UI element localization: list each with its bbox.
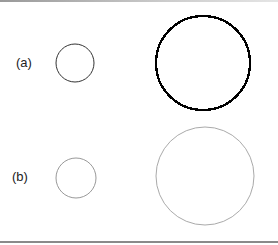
figure-canvas: (a) (b) — [0, 0, 278, 245]
circle-a-large-pixelated — [156, 16, 250, 110]
circle-a-small — [56, 44, 94, 82]
circle-b-small — [56, 158, 96, 198]
circles-figure — [0, 0, 278, 245]
bottom-rule — [0, 241, 278, 243]
circle-b-large — [156, 127, 254, 225]
